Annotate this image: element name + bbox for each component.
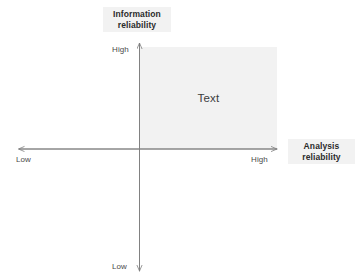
x-axis-high-label: High (251, 155, 268, 164)
quadrant-diagram-canvas: Text Information reliability Analysis re… (0, 0, 359, 280)
x-axis-low-label: Low (16, 155, 31, 164)
x-axis-title: Analysis reliability (288, 139, 355, 164)
y-axis-high-label: High (112, 45, 129, 54)
y-axis-low-label: Low (112, 262, 127, 271)
y-axis-title: Information reliability (103, 7, 171, 32)
quadrant-label-text: Text (140, 47, 277, 149)
